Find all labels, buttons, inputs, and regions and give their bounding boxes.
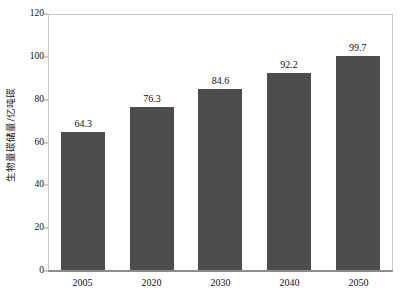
y-axis-title: 生物量碳储量/亿吨碳 [0,0,20,270]
bar: 92.2 [267,73,311,270]
bar: 99.7 [336,56,380,270]
bar: 64.3 [61,132,105,270]
plot-area: 64.376.384.692.299.7 [48,14,393,271]
y-axis-tick-label: 80 [35,95,45,105]
y-axis-tick-labels: 020406080100120 [18,0,48,271]
bar: 76.3 [130,107,174,270]
bar-slot: 76.3 [118,15,187,270]
x-axis-tick-label: 2005 [48,274,117,294]
bar-series: 64.376.384.692.299.7 [49,15,392,270]
x-axis-tick-label: 2050 [324,274,393,294]
y-axis-tick-label: 40 [35,181,45,191]
y-axis-tick-label: 120 [30,9,44,19]
bar-value-label: 92.2 [280,60,298,70]
bar-slot: 64.3 [49,15,118,270]
bar-value-label: 76.3 [143,94,161,104]
bar-slot: 84.6 [186,15,255,270]
x-axis-tick-label: 2020 [117,274,186,294]
bar-slot: 99.7 [323,15,392,270]
bar-value-label: 64.3 [75,119,93,129]
bar-value-label: 99.7 [349,43,367,53]
y-axis-tick-label: 100 [30,52,44,62]
x-axis-line [48,271,393,272]
y-axis-tick-label: 60 [35,138,45,148]
x-axis-tick-labels: 20052020203020402050 [48,274,393,294]
y-axis-title-text: 生物量碳储量/亿吨碳 [3,88,17,181]
x-axis-tick-label: 2030 [186,274,255,294]
y-axis-tick-label: 20 [35,223,45,233]
bar-value-label: 84.6 [212,76,230,86]
bar: 84.6 [198,89,242,270]
x-axis-tick-label: 2040 [255,274,324,294]
bar-chart: 生物量碳储量/亿吨碳 020406080100120 64.376.384.69… [0,0,407,305]
bar-slot: 92.2 [255,15,324,270]
